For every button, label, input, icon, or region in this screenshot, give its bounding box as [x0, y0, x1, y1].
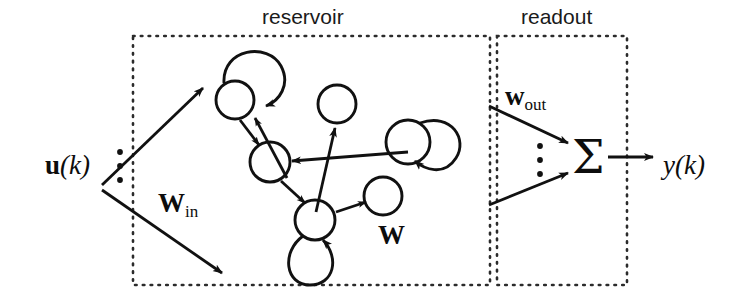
output-signal-label: y(k)	[663, 152, 705, 179]
figure-canvas: reservoir readout u(k) Win W wout Σ y(k)	[0, 0, 756, 305]
diagram-vector-layer	[0, 0, 756, 305]
reservoir-box-label: reservoir	[262, 6, 344, 27]
edge-n2-n4	[281, 181, 305, 203]
reservoir-node-n6	[386, 120, 430, 164]
edge-n4-n3	[316, 128, 335, 212]
reservoir-node-n1	[216, 81, 254, 119]
edge-n1-n2	[240, 120, 259, 145]
output-weight-vector-label: wout	[505, 83, 546, 110]
edge-n4-n5	[336, 202, 366, 212]
reservoir-weight-matrix-label: W	[378, 222, 405, 249]
reservoir-node-n5	[364, 177, 402, 215]
readout-box	[497, 36, 627, 285]
readout-box-label: readout	[521, 6, 592, 27]
reservoir-node-n3	[318, 85, 356, 123]
self-loop-n4	[289, 236, 333, 285]
input-weight-matrix-label: Win	[158, 190, 198, 217]
input-arrow-upper	[102, 88, 203, 185]
input-dots	[117, 149, 123, 183]
input-signal-label: u(k)	[45, 152, 90, 179]
readout-arrow-lower	[489, 173, 568, 205]
summation-node: Σ	[572, 134, 605, 180]
readout-dots	[537, 143, 543, 177]
reservoir-node-n4	[295, 200, 335, 240]
